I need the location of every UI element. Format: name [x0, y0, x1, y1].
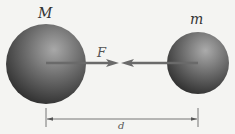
small-mass-label: m [190, 12, 203, 26]
gravitation-diagram: M m F d [0, 0, 235, 134]
distance-label: d [118, 121, 124, 131]
large-mass-label: M [38, 6, 52, 20]
force-label: F [97, 46, 106, 59]
